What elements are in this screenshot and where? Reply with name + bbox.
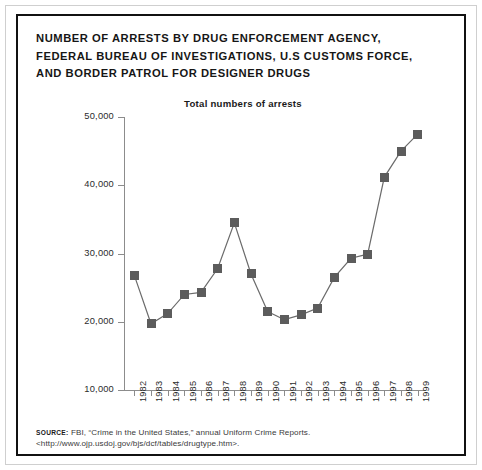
x-tick bbox=[268, 390, 269, 396]
x-tick bbox=[334, 390, 335, 396]
x-tick bbox=[368, 390, 369, 396]
x-tick-label: 1994 bbox=[338, 381, 348, 402]
x-tick bbox=[134, 390, 135, 396]
data-point bbox=[313, 304, 322, 313]
y-tick-label: 20,000 bbox=[60, 316, 114, 326]
source-text: FBI, “Crime in the United States,” annua… bbox=[36, 428, 310, 448]
y-tick bbox=[118, 117, 125, 118]
data-point bbox=[213, 264, 222, 273]
x-tick bbox=[284, 390, 285, 396]
x-tick bbox=[168, 390, 169, 396]
x-tick-label: 1985 bbox=[188, 381, 198, 402]
x-tick-label: 1996 bbox=[371, 381, 381, 402]
y-tick-label: 40,000 bbox=[60, 179, 114, 189]
x-tick-label: 1989 bbox=[254, 381, 264, 402]
data-point bbox=[363, 250, 372, 259]
y-tick-label: 10,000 bbox=[60, 384, 114, 394]
x-tick-label: 1983 bbox=[154, 381, 164, 402]
x-tick bbox=[184, 390, 185, 396]
data-point bbox=[230, 218, 239, 227]
data-point bbox=[147, 319, 156, 328]
x-tick bbox=[234, 390, 235, 396]
source-note: SOURCE: FBI, “Crime in the United States… bbox=[36, 427, 452, 449]
data-point bbox=[197, 288, 206, 297]
y-tick-label: 30,000 bbox=[60, 248, 114, 258]
x-tick bbox=[351, 390, 352, 396]
figure-frame: NUMBER OF ARRESTS BY DRUG ENFORCEMENT AG… bbox=[16, 14, 466, 456]
x-tick-label: 1984 bbox=[171, 381, 181, 402]
data-point bbox=[380, 173, 389, 182]
data-point bbox=[163, 309, 172, 318]
data-point bbox=[247, 269, 256, 278]
x-tick bbox=[384, 390, 385, 396]
y-axis-labels: 50,00040,00030,00020,00010,000 bbox=[56, 16, 114, 458]
data-point bbox=[330, 273, 339, 282]
x-tick bbox=[401, 390, 402, 396]
y-tick bbox=[118, 322, 125, 323]
x-tick-label: 1995 bbox=[354, 381, 364, 402]
x-tick-label: 1990 bbox=[271, 381, 281, 402]
chart: Total numbers of arrests 50,00040,00030,… bbox=[18, 16, 468, 458]
x-tick bbox=[301, 390, 302, 396]
x-tick-label: 1986 bbox=[204, 381, 214, 402]
data-point bbox=[413, 130, 422, 139]
data-point bbox=[297, 310, 306, 319]
y-tick bbox=[118, 254, 125, 255]
y-tick bbox=[118, 185, 125, 186]
figure-page: NUMBER OF ARRESTS BY DRUG ENFORCEMENT AG… bbox=[0, 0, 482, 470]
x-tick bbox=[418, 390, 419, 396]
data-point bbox=[180, 290, 189, 299]
data-point bbox=[280, 315, 289, 324]
source-label: SOURCE: bbox=[36, 429, 69, 436]
data-point bbox=[397, 147, 406, 156]
x-tick-label: 1992 bbox=[304, 381, 314, 402]
data-point bbox=[130, 271, 139, 280]
x-tick bbox=[218, 390, 219, 396]
x-tick-label: 1988 bbox=[238, 381, 248, 402]
data-point bbox=[347, 254, 356, 263]
x-tick bbox=[318, 390, 319, 396]
x-tick-label: 1987 bbox=[221, 381, 231, 402]
x-tick-label: 1991 bbox=[288, 381, 298, 402]
x-tick bbox=[201, 390, 202, 396]
data-point bbox=[263, 307, 272, 316]
x-tick bbox=[251, 390, 252, 396]
x-tick-label: 1993 bbox=[321, 381, 331, 402]
x-tick-label: 1997 bbox=[388, 381, 398, 402]
x-tick-label: 1999 bbox=[421, 381, 431, 402]
x-tick bbox=[151, 390, 152, 396]
y-tick-label: 50,000 bbox=[60, 111, 114, 121]
x-tick-label: 1982 bbox=[138, 381, 148, 402]
x-tick-label: 1998 bbox=[404, 381, 414, 402]
y-tick bbox=[118, 390, 125, 391]
